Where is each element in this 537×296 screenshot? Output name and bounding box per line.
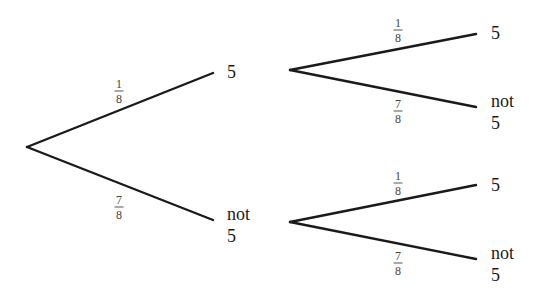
prob-5-to-not5: 7 8 xyxy=(394,98,403,125)
prob-denominator: 8 xyxy=(116,93,122,105)
prob-numerator: 7 xyxy=(395,250,401,262)
prob-root-to-5: 1 8 xyxy=(115,78,124,105)
outcome-not5-5: 5 xyxy=(491,174,500,196)
tree-branches xyxy=(0,0,537,296)
branch-not5-to-5 xyxy=(290,185,476,222)
outcome-text-line1: not xyxy=(227,203,250,225)
prob-denominator: 8 xyxy=(395,32,401,44)
prob-denominator: 8 xyxy=(116,209,122,221)
branch-not5-to-not5 xyxy=(290,222,476,259)
prob-not5-to-5: 1 8 xyxy=(394,170,403,197)
outcome-text: 5 xyxy=(227,61,236,83)
prob-numerator: 1 xyxy=(395,17,401,29)
prob-numerator: 1 xyxy=(116,78,122,90)
outcome-5-level1: 5 xyxy=(227,61,236,83)
prob-numerator: 1 xyxy=(395,170,401,182)
prob-not5-to-not5: 7 8 xyxy=(394,250,403,277)
outcome-not5-level1: not 5 xyxy=(227,203,250,247)
outcome-text-line2: 5 xyxy=(227,225,250,247)
outcome-text: 5 xyxy=(491,22,500,44)
outcome-text-line2: 5 xyxy=(491,264,514,286)
outcome-text-line2: 5 xyxy=(491,112,514,134)
outcome-text: 5 xyxy=(491,174,500,196)
outcome-text-line1: not xyxy=(491,242,514,264)
prob-denominator: 8 xyxy=(395,185,401,197)
outcome-5-not5: not 5 xyxy=(491,90,514,134)
branch-5-to-not5 xyxy=(290,70,476,107)
prob-5-to-5: 1 8 xyxy=(394,17,403,44)
outcome-not5-not5: not 5 xyxy=(491,242,514,286)
branch-5-to-5 xyxy=(290,34,476,70)
prob-denominator: 8 xyxy=(395,113,401,125)
prob-root-to-not5: 7 8 xyxy=(115,194,124,221)
outcome-5-5: 5 xyxy=(491,22,500,44)
outcome-text-line1: not xyxy=(491,90,514,112)
prob-denominator: 8 xyxy=(395,265,401,277)
prob-numerator: 7 xyxy=(116,194,122,206)
prob-numerator: 7 xyxy=(395,98,401,110)
